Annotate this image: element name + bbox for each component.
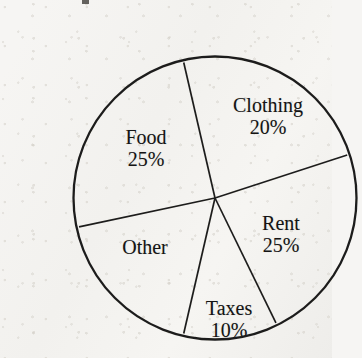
slice-divider-taxes-other <box>184 198 215 333</box>
pie-chart-figure: Clothing 20% Food 25% Rent 25% Other Tax… <box>40 16 292 342</box>
slice-divider-other-food <box>79 198 215 227</box>
slice-divider-food-clothing <box>184 63 215 198</box>
cropped-glyph-mark <box>82 0 89 4</box>
slice-divider-clothing-rent <box>215 155 347 198</box>
pie-chart-svg <box>40 16 362 358</box>
slice-divider-rent-taxes <box>215 198 276 323</box>
